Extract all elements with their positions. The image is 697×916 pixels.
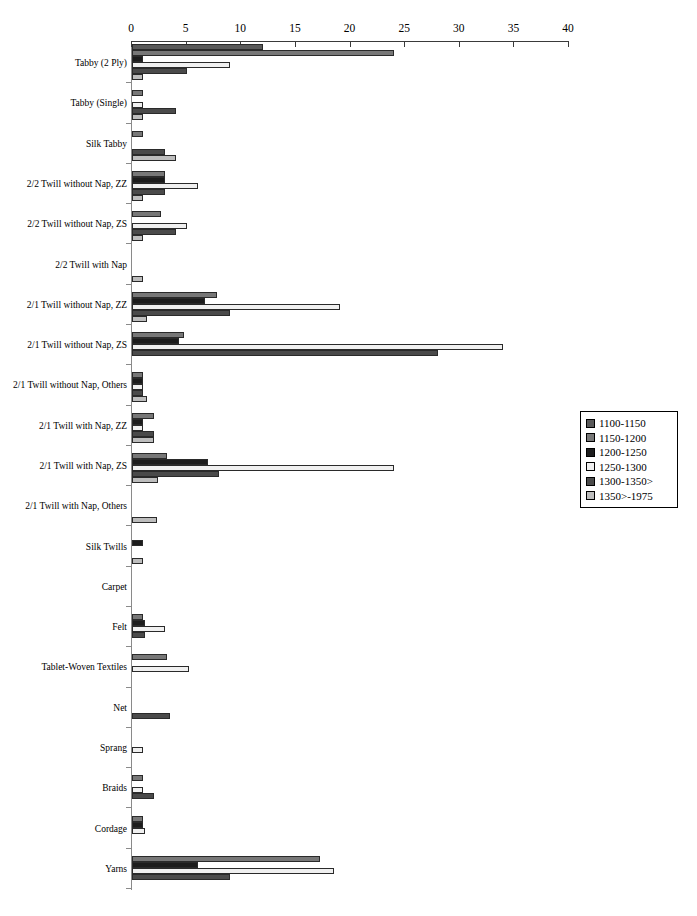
- y-tick: [126, 646, 132, 647]
- legend-label: 1350>-1975: [599, 489, 653, 504]
- bar: [132, 437, 154, 443]
- legend-item: 1250-1300: [586, 460, 672, 475]
- x-tick-label: 25: [384, 22, 424, 35]
- y-axis-label-text: Silk Tabby: [86, 139, 127, 150]
- y-axis-label-text: 2/2 Twill without Nap, ZS: [27, 219, 127, 230]
- bar: [132, 350, 438, 356]
- bar-chart: 0510152025303540 Tabby (2 Ply)Tabby (Sin…: [0, 0, 697, 916]
- x-tick-label: 0: [111, 22, 151, 35]
- legend-swatch-icon: [586, 477, 595, 486]
- x-tick: [404, 41, 405, 47]
- bar: [132, 517, 157, 523]
- bar: [132, 747, 143, 753]
- legend-swatch-icon: [586, 462, 595, 471]
- legend-swatch-icon: [586, 433, 595, 442]
- y-tick: [126, 203, 132, 204]
- legend-item: 1300-1350>: [586, 474, 672, 489]
- y-axis-label-text: Sprang: [100, 743, 127, 754]
- y-tick: [126, 243, 132, 244]
- legend-item: 1200-1250: [586, 445, 672, 460]
- bar: [132, 131, 143, 137]
- chart-legend: 1100-11501150-12001200-12501250-13001300…: [580, 411, 678, 508]
- y-tick: [126, 525, 132, 526]
- bar: [132, 540, 143, 546]
- y-axis-label-text: 2/1 Twill with Nap, Others: [25, 501, 127, 512]
- legend-swatch-icon: [586, 448, 595, 457]
- legend-item: 1150-1200: [586, 431, 672, 446]
- y-axis-label-text: Carpet: [102, 582, 127, 593]
- y-tick: [126, 848, 132, 849]
- y-tick: [126, 163, 132, 164]
- bar: [132, 211, 161, 217]
- y-tick: [126, 123, 132, 124]
- y-axis-label-text: Tablet-Woven Textiles: [41, 662, 127, 673]
- bar: [132, 195, 143, 201]
- bar: [132, 666, 189, 672]
- y-axis-label-text: Felt: [112, 622, 127, 633]
- y-axis-label-text: 2/1 Twill with Nap, ZZ: [39, 421, 127, 432]
- y-tick: [126, 405, 132, 406]
- x-tick: [350, 41, 351, 47]
- legend-swatch-icon: [586, 419, 595, 428]
- bar: [132, 90, 143, 96]
- y-tick: [126, 566, 132, 567]
- bar: [132, 276, 143, 282]
- x-tick: [568, 41, 569, 47]
- x-tick-label: 40: [548, 22, 588, 35]
- bar: [132, 235, 143, 241]
- bar: [132, 74, 143, 80]
- bar: [132, 477, 158, 483]
- y-axis-label-text: 2/2 Twill with Nap: [55, 260, 127, 271]
- y-axis-label-text: Cordage: [95, 824, 127, 835]
- y-axis-label-text: 2/1 Twill without Nap, ZS: [27, 340, 127, 351]
- y-axis-label-text: Tabby (Single): [70, 98, 127, 109]
- x-tick: [295, 41, 296, 47]
- bar: [132, 396, 147, 402]
- y-tick: [126, 888, 132, 889]
- legend-label: 1100-1150: [599, 416, 646, 431]
- bar: [132, 114, 143, 120]
- bar: [132, 793, 154, 799]
- x-tick: [513, 41, 514, 47]
- bar: [132, 874, 230, 880]
- legend-label: 1300-1350>: [599, 474, 653, 489]
- x-tick-label: 10: [220, 22, 260, 35]
- y-axis-label-text: Net: [113, 703, 127, 714]
- y-axis-label-text: 2/2 Twill without Nap, ZZ: [27, 179, 127, 190]
- y-axis-label-text: Braids: [102, 783, 127, 794]
- y-tick: [126, 284, 132, 285]
- legend-item: 1100-1150: [586, 416, 672, 431]
- bar: [132, 713, 170, 719]
- y-axis-label-text: Silk Twills: [86, 542, 127, 553]
- legend-label: 1150-1200: [599, 431, 646, 446]
- y-tick: [126, 807, 132, 808]
- bar: [132, 316, 147, 322]
- legend-label: 1200-1250: [599, 445, 647, 460]
- bar: [132, 775, 143, 781]
- y-axis-label-text: 2/1 Twill without Nap, ZZ: [27, 300, 127, 311]
- legend-item: 1350>-1975: [586, 489, 672, 504]
- y-axis-label-text: Yarns: [105, 864, 127, 875]
- y-tick: [126, 364, 132, 365]
- x-tick-label: 20: [330, 22, 370, 35]
- x-tick: [459, 41, 460, 47]
- y-tick: [126, 727, 132, 728]
- legend-label: 1250-1300: [599, 460, 647, 475]
- x-tick-label: 5: [166, 22, 206, 35]
- bar: [132, 828, 145, 834]
- bar: [132, 632, 145, 638]
- y-tick: [126, 767, 132, 768]
- bar: [132, 155, 176, 161]
- x-tick-label: 35: [493, 22, 533, 35]
- bar: [132, 654, 167, 660]
- y-tick: [126, 687, 132, 688]
- y-tick: [126, 82, 132, 83]
- y-tick: [126, 324, 132, 325]
- y-tick: [126, 485, 132, 486]
- y-axis-label-text: 2/1 Twill with Nap, ZS: [39, 461, 127, 472]
- x-tick-label: 30: [439, 22, 479, 35]
- legend-swatch-icon: [586, 491, 595, 500]
- x-tick-label: 15: [275, 22, 315, 35]
- bar: [132, 558, 143, 564]
- bar: [132, 50, 394, 56]
